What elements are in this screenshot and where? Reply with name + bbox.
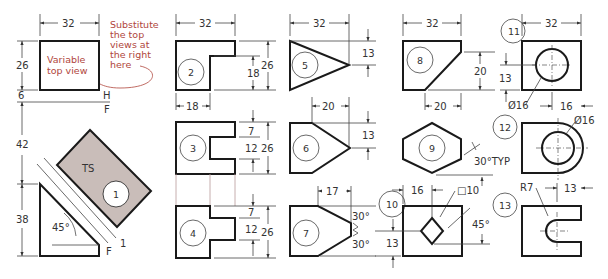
svg-text:11: 11 bbox=[508, 26, 520, 37]
substitute-note: Substitute the top views at the right he… bbox=[100, 19, 159, 88]
figure-6: 20 6 13 bbox=[290, 97, 376, 173]
svg-text:12: 12 bbox=[245, 143, 258, 154]
svg-text:13: 13 bbox=[564, 183, 577, 194]
true-size-aux-view bbox=[57, 130, 151, 227]
figure-5: 32 5 13 bbox=[290, 14, 376, 90]
svg-text:30°: 30° bbox=[352, 211, 370, 222]
svg-text:26: 26 bbox=[261, 143, 274, 154]
ts-label: TS bbox=[81, 163, 94, 174]
svg-text:2: 2 bbox=[188, 67, 194, 78]
figure-10: 10 16 □10 13 45° bbox=[375, 185, 490, 268]
svg-text:13: 13 bbox=[499, 200, 511, 211]
svg-text:9: 9 bbox=[429, 143, 435, 154]
svg-text:30°: 30° bbox=[352, 239, 370, 250]
svg-text:4: 4 bbox=[190, 228, 196, 239]
svg-text:20: 20 bbox=[322, 101, 335, 112]
svg-text:32: 32 bbox=[199, 18, 212, 29]
dim-width-32: 32 bbox=[62, 18, 75, 29]
svg-text:R7: R7 bbox=[520, 182, 533, 193]
figure-13: 13 R7 13 bbox=[493, 182, 593, 256]
dim-front-38: 38 bbox=[16, 214, 29, 225]
dim-gap-6: 6 bbox=[18, 90, 24, 101]
svg-text:Ø16: Ø16 bbox=[574, 115, 595, 126]
svg-text:12: 12 bbox=[245, 224, 258, 235]
svg-text:32: 32 bbox=[426, 18, 439, 29]
svg-text:16: 16 bbox=[560, 101, 573, 112]
main-view: 32 Variable top view Substitute the top … bbox=[16, 14, 159, 257]
figure-12: 12 Ø16 bbox=[493, 115, 595, 180]
svg-text:20: 20 bbox=[474, 66, 487, 77]
fold-label-f: F bbox=[104, 104, 110, 115]
svg-text:26: 26 bbox=[261, 60, 274, 71]
svg-text:7: 7 bbox=[248, 126, 254, 137]
figure-11: 11 32 13 Ø16 16 bbox=[499, 14, 593, 112]
figure-4: 4 7 12 26 bbox=[176, 194, 276, 258]
svg-text:30°TYP: 30°TYP bbox=[474, 156, 510, 167]
svg-text:7: 7 bbox=[248, 207, 254, 218]
drawing-sheet: 32 Variable top view Substitute the top … bbox=[0, 0, 608, 279]
dim-depth-26: 26 bbox=[16, 60, 29, 71]
svg-text:16: 16 bbox=[411, 185, 424, 196]
svg-text:8: 8 bbox=[417, 55, 423, 66]
figure-7: 17 7 30° 30° bbox=[290, 186, 376, 256]
svg-text:□10: □10 bbox=[457, 185, 479, 196]
svg-text:12: 12 bbox=[499, 122, 511, 133]
svg-text:17: 17 bbox=[326, 186, 339, 197]
top-view-label-line2: top view bbox=[47, 65, 88, 76]
dim-angle-45: 45° bbox=[52, 222, 70, 233]
svg-text:7: 7 bbox=[303, 228, 309, 239]
svg-text:13: 13 bbox=[362, 130, 375, 141]
fold-label-1: 1 bbox=[120, 238, 126, 249]
svg-text:20: 20 bbox=[434, 101, 447, 112]
svg-text:26: 26 bbox=[261, 227, 274, 238]
figure-8: 32 8 20 20 bbox=[403, 14, 495, 112]
svg-text:10: 10 bbox=[386, 199, 398, 210]
svg-text:13: 13 bbox=[499, 73, 512, 84]
svg-text:13: 13 bbox=[362, 48, 375, 59]
svg-text:3: 3 bbox=[190, 143, 196, 154]
svg-text:45°: 45° bbox=[472, 219, 490, 230]
top-view-label-line1: Variable bbox=[47, 54, 86, 65]
svg-text:13: 13 bbox=[386, 238, 399, 249]
svg-text:5: 5 bbox=[302, 60, 308, 71]
svg-text:18: 18 bbox=[186, 101, 199, 112]
svg-text:32: 32 bbox=[313, 18, 326, 29]
fold-label-f-aux: F bbox=[106, 246, 112, 257]
figure-3: 3 7 12 26 bbox=[176, 110, 276, 174]
figure-2: 32 2 18 26 18 bbox=[176, 14, 276, 112]
svg-text:6: 6 bbox=[303, 143, 309, 154]
dim-gap-42: 42 bbox=[16, 139, 29, 150]
svg-text:Ø16: Ø16 bbox=[508, 100, 529, 111]
svg-text:here: here bbox=[110, 59, 132, 70]
fold-label-h: H bbox=[103, 90, 111, 101]
svg-text:32: 32 bbox=[545, 18, 558, 29]
svg-text:18: 18 bbox=[247, 68, 260, 79]
aux-circle-label: 1 bbox=[113, 189, 119, 200]
